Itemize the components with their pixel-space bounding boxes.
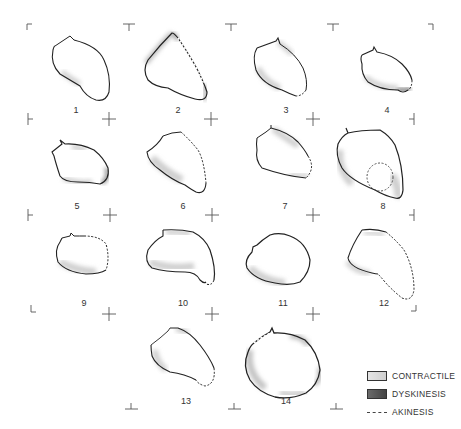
ventricle-panel-11	[246, 234, 310, 285]
ventricle-panel-13	[151, 328, 214, 386]
ventricle-panel-4	[361, 47, 412, 92]
akinesis-dashed-line-icon	[367, 412, 387, 413]
ventricle-panel-9	[56, 233, 108, 274]
ventricle-panel-12	[347, 229, 414, 299]
contractile-swatch-icon	[367, 371, 387, 381]
ventricle-panel-6	[147, 132, 206, 193]
legend: CONTRACTILE DYSKINESIS AKINESIS	[367, 369, 461, 423]
legend-item-contractile: CONTRACTILE	[367, 369, 461, 383]
ventricle-panel-10	[147, 230, 215, 285]
ventricle-outline-figure	[0, 0, 461, 429]
panel-label-4: 4	[384, 105, 389, 115]
ventricle-panel-14	[245, 328, 320, 398]
panel-label-12: 12	[379, 298, 389, 308]
legend-label-akinesis: AKINESIS	[392, 407, 434, 417]
panel-label-7: 7	[282, 201, 287, 211]
ventricle-panel-3	[254, 38, 306, 96]
ventricle-panel-1	[52, 36, 110, 101]
panel-label-11: 11	[278, 298, 287, 308]
panel-label-9: 9	[81, 298, 86, 308]
legend-item-dyskinesis: DYSKINESIS	[367, 387, 461, 401]
panel-label-5: 5	[74, 201, 79, 211]
panel-label-10: 10	[178, 298, 188, 308]
dyskinesis-swatch-icon	[367, 389, 387, 399]
legend-item-akinesis: AKINESIS	[367, 405, 461, 419]
legend-label-contractile: CONTRACTILE	[392, 371, 455, 381]
legend-label-dyskinesis: DYSKINESIS	[392, 389, 446, 399]
panel-label-14: 14	[281, 396, 291, 406]
panel-label-3: 3	[283, 105, 288, 115]
panel-label-2: 2	[175, 105, 180, 115]
ventricle-panel-2	[145, 33, 207, 100]
panel-label-1: 1	[73, 105, 78, 115]
panel-label-13: 13	[181, 396, 191, 406]
ventricle-panel-8	[337, 128, 403, 198]
panel-label-6: 6	[180, 201, 185, 211]
panel-label-8: 8	[380, 201, 385, 211]
ventricle-panel-5	[52, 140, 108, 184]
ventricle-panel-7	[257, 125, 312, 178]
